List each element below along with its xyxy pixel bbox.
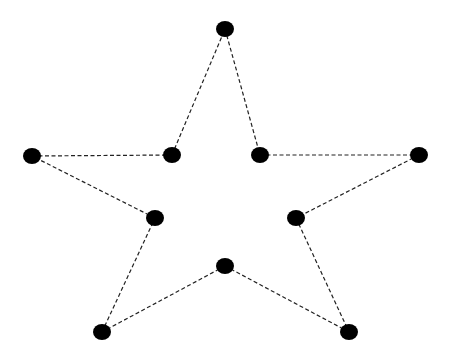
- dashed-edge: [296, 155, 419, 218]
- dot-inner-upper-left: [163, 147, 181, 163]
- dot-inner-bottom: [216, 258, 234, 274]
- dashed-edges: [32, 29, 419, 332]
- dot-inner-upper-right: [251, 147, 269, 163]
- dashed-edge: [225, 266, 349, 332]
- dashed-edge: [32, 156, 155, 218]
- dashed-edge: [172, 29, 225, 155]
- dots: [23, 21, 428, 340]
- star-diagram-svg: [0, 0, 453, 362]
- dot-top: [216, 21, 234, 37]
- dot-inner-lower-right: [287, 210, 305, 226]
- dashed-edge: [102, 218, 155, 332]
- dashed-edge: [225, 29, 260, 155]
- dot-inner-lower-left: [146, 210, 164, 226]
- dashed-edge: [102, 266, 225, 332]
- dot-outer-left: [23, 148, 41, 164]
- star-diagram: [0, 0, 453, 362]
- dot-outer-bottom-left: [93, 324, 111, 340]
- dot-outer-bottom-right: [340, 324, 358, 340]
- dashed-edge: [32, 155, 172, 156]
- dashed-edge: [296, 218, 349, 332]
- dot-outer-right: [410, 147, 428, 163]
